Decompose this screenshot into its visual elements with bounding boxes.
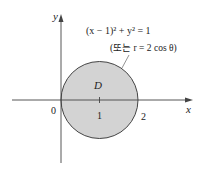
leader-line: [122, 55, 129, 68]
x-axis-arrow-icon: [185, 98, 193, 103]
y-axis-arrow-icon: [59, 14, 64, 22]
equation-label: (x − 1)² + y² = 1: [86, 25, 151, 37]
tick-label-two: 2: [141, 111, 146, 122]
region-label: D: [93, 79, 102, 91]
origin-label: 0: [51, 105, 56, 116]
x-axis-label: x: [185, 103, 191, 115]
equation-alt-label: (또는 r = 2 cos θ): [110, 43, 177, 54]
tick-label-one: 1: [97, 110, 102, 121]
y-axis-label: y: [52, 10, 58, 22]
diagram-canvas: y x 0 1 2 D (x − 1)² + y² = 1 (또는 r = 2 …: [0, 0, 199, 171]
